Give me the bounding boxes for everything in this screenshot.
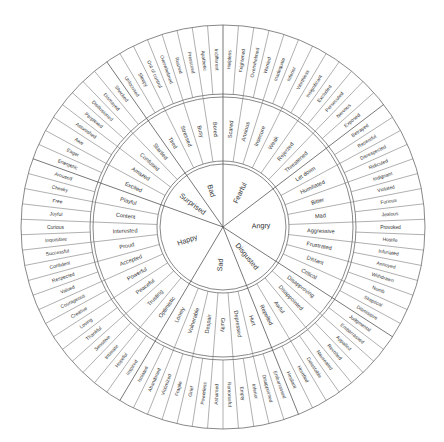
secondary-emotion-scared: Scared [227, 120, 234, 138]
secondary-emotion-playful: Playful [120, 196, 138, 206]
tertiary-emotion-nervous: Nervous [335, 102, 352, 119]
tertiary-emotion-sensitive: Sensitive [93, 334, 111, 352]
core-emotion-bad: Bad [205, 183, 217, 198]
secondary-emotion-guilty: Guilty [220, 318, 226, 333]
tertiary-emotion-intimate: Intimate [104, 344, 119, 361]
tertiary-divider [355, 204, 424, 212]
secondary-emotion-humiliated: Humiliated [299, 179, 326, 195]
secondary-emotion-startled: Startled [152, 142, 169, 161]
tertiary-emotion-pressured: Pressured [187, 51, 196, 74]
tertiary-emotion-curious: Curious [47, 225, 64, 230]
secondary-emotion-weak: Weak [267, 135, 280, 150]
feelings-wheel-svg: FearfulScaredHelplessFrightenedAnxiousOv… [0, 0, 444, 442]
tertiary-emotion-overwhelmed: Overwhelmed [250, 47, 261, 78]
secondary-divider [208, 293, 218, 429]
secondary-emotion-trusting: Trusting [146, 288, 164, 307]
tertiary-divider [53, 117, 111, 155]
tertiary-emotion-infuriated: Infuriated [378, 249, 399, 257]
tertiary-emotion-betrayed: Betrayed [351, 123, 370, 139]
tertiary-emotion-awe: Awe [74, 137, 85, 146]
secondary-emotion-frustrated: Frustrated [306, 240, 332, 251]
tertiary-emotion-aroused: Aroused [54, 171, 73, 181]
secondary-emotion-despair: Despair [204, 314, 213, 334]
tertiary-emotion-appalled: Appalled [335, 335, 352, 352]
tertiary-emotion-provoked: Provoked [380, 225, 401, 230]
tertiary-emotion-helpless: Helpless [227, 50, 233, 69]
tertiary-emotion-embarrassed: Embarrassed [272, 370, 287, 399]
tertiary-emotion-powerless: Powerless [200, 381, 208, 405]
tertiary-emotion-grief: Grief [188, 385, 195, 397]
secondary-emotion-vulnerable: Vulnerable [187, 307, 201, 334]
secondary-emotion-optimistic: Optimistic [157, 295, 176, 319]
secondary-emotion-content: Content [116, 212, 137, 220]
secondary-emotion-confused: Confused [139, 152, 161, 172]
tertiary-emotion-perplexed: Perplexed [84, 111, 104, 129]
secondary-emotion-let-down: Let down [294, 165, 316, 182]
tertiary-divider [208, 26, 213, 95]
secondary-emotion-hurt: Hurt [248, 314, 257, 326]
tertiary-emotion-jealous: Jealous [381, 211, 399, 217]
tertiary-emotion-thankful: Thankful [85, 326, 103, 342]
wheel-spokes [21, 25, 425, 429]
tertiary-emotion-isolated: Isolated [137, 365, 150, 383]
tertiary-emotion-remorseful: Remorseful [226, 382, 232, 407]
secondary-emotion-proud: Proud [119, 241, 135, 250]
secondary-emotion-peaceful: Peaceful [135, 277, 156, 295]
core-divider [120, 227, 223, 401]
tertiary-emotion-confident: Confident [49, 260, 71, 270]
tertiary-emotion-creative: Creative [70, 306, 88, 320]
secondary-emotion-rejected: Rejected [276, 141, 295, 162]
core-emotion-fearful: Fearful [231, 181, 249, 205]
secondary-divider [269, 81, 363, 179]
tertiary-emotion-valued: Valued [60, 284, 76, 294]
secondary-divider [21, 219, 157, 224]
core-emotion-sad: Sad [215, 258, 225, 271]
tertiary-emotion-annoyed: Annoyed [376, 261, 396, 270]
core-emotion-surprised: Surprised [178, 191, 208, 217]
core-emotion-disgusted: Disgusted [234, 241, 261, 271]
secondary-emotion-interested: Interested [113, 227, 138, 234]
secondary-emotion-anxious: Anxious [240, 121, 250, 142]
tertiary-emotion-horrified: Horrified [296, 365, 309, 384]
tertiary-emotion-indifferent: Indifferent [214, 49, 220, 71]
core-emotion-happy: Happy [176, 232, 199, 248]
tertiary-divider [233, 26, 238, 95]
core-divider [223, 227, 299, 414]
tertiary-emotion-inferior: Inferior [251, 383, 259, 399]
tertiary-emotion-detestable: Detestable [306, 356, 323, 379]
secondary-emotion-mad: Mad [315, 212, 327, 219]
secondary-emotion-depressed: Depressed [233, 310, 243, 338]
tertiary-emotion-furious: Furious [380, 198, 397, 206]
tertiary-emotion-revolted: Revolted [326, 343, 343, 361]
tertiary-emotion-inquisitive: Inquisitive [45, 236, 67, 243]
tertiary-emotion-hostile: Hostile [382, 237, 398, 243]
tertiary-emotion-inspired: Inspired [125, 359, 139, 377]
tertiary-emotion-shocked: Shocked [114, 85, 130, 103]
tertiary-emotion-apathetic: Apathetic [200, 50, 207, 71]
tertiary-emotion-hopeful: Hopeful [114, 352, 128, 368]
tertiary-emotion-disrespected: Disrespected [359, 144, 387, 161]
tertiary-emotion-inadequate: Inadequate [273, 57, 286, 82]
tertiary-emotion-resentful: Resentful [357, 134, 377, 149]
tertiary-emotion-frightened: Frightened [238, 48, 246, 72]
tertiary-divider [46, 291, 107, 324]
tertiary-emotion-skeptical: Skeptical [363, 295, 383, 308]
secondary-divider [288, 189, 422, 215]
secondary-emotion-aggressive: Aggressive [307, 227, 335, 234]
tertiary-emotion-worthless: Worthless [296, 69, 311, 91]
tertiary-emotion-exposed: Exposed [343, 112, 361, 128]
secondary-divider [25, 189, 159, 215]
tertiary-emotion-empty: Empty [239, 386, 246, 401]
tertiary-divider [291, 53, 326, 112]
tertiary-emotion-ashamed: Ashamed [214, 384, 220, 405]
core-emotion-angry: Angry [251, 221, 271, 231]
secondary-emotion-bitter: Bitter [310, 196, 324, 205]
tertiary-divider [21, 232, 90, 235]
tertiary-emotion-joyful: Joyful [49, 211, 62, 217]
secondary-emotion-lonely: Lonely [173, 306, 186, 324]
tertiary-emotion-violated: Violated [377, 184, 396, 193]
tertiary-emotion-cheeky: Cheeky [51, 185, 69, 194]
secondary-emotion-tired: Tired [167, 136, 179, 150]
tertiary-emotion-dismissive: Dismissive [356, 304, 379, 320]
tertiary-emotion-inferior: Inferior [286, 66, 297, 82]
